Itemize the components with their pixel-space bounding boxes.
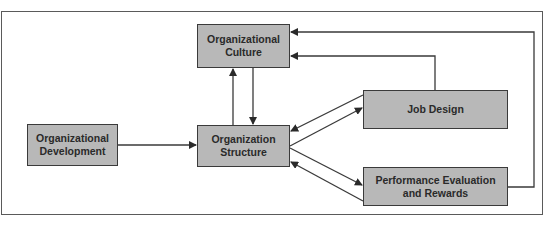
node-label: Performance Evaluation and Rewards — [375, 174, 495, 200]
arrow-performance-to-structure — [291, 162, 363, 201]
node-organization-structure: Organization Structure — [197, 125, 290, 167]
node-label: Organizational Development — [36, 132, 109, 158]
node-organizational-development: Organizational Development — [27, 124, 118, 166]
node-organizational-culture: Organizational Culture — [197, 24, 290, 68]
node-performance-evaluation: Performance Evaluation and Rewards — [363, 167, 508, 206]
arrow-job-design-to-culture — [291, 56, 435, 90]
node-label: Job Design — [407, 103, 464, 116]
node-label: Organizational Culture — [207, 33, 280, 59]
node-job-design: Job Design — [363, 90, 508, 129]
arrow-structure-to-performance — [290, 148, 362, 185]
node-label: Organization Structure — [211, 133, 275, 159]
